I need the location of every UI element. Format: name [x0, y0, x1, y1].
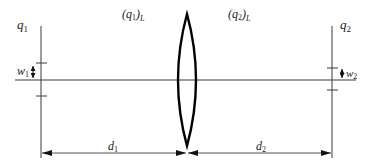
label-w2: w2 — [346, 67, 357, 81]
lens-diagram: q1 q2 (q1)L (q2)L w1 w2 d1 d2 — [0, 0, 370, 167]
label-q1: q1 — [17, 17, 28, 34]
label-d2: d2 — [256, 139, 266, 154]
label-q2: q2 — [340, 17, 351, 34]
label-q1-lens: (q1)L — [122, 7, 145, 23]
label-d1: d1 — [108, 139, 118, 154]
label-w1: w1 — [17, 64, 29, 79]
label-q2-lens: (q2)L — [228, 7, 251, 23]
